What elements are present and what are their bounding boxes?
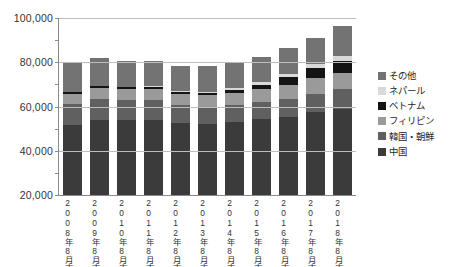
bar-segment-ベトナム — [306, 68, 325, 78]
axis-tick-mark-minor — [55, 84, 59, 85]
bar-segment-ベトナム — [279, 77, 298, 84]
chart-legend: その他ネパールベトナムフィリピン韓国・朝鮮中国 — [378, 68, 456, 159]
legend-label: ネパール — [389, 86, 425, 95]
gridline — [59, 151, 356, 152]
plot-area — [58, 18, 355, 195]
bar-segment-フィリピン — [90, 88, 109, 99]
legend-swatch-icon — [378, 148, 386, 156]
bar-2009年8月末 — [90, 58, 109, 195]
bar-segment-その他 — [171, 66, 190, 91]
x-axis-tick-label: 2013年8月末 — [198, 198, 207, 260]
bar-segment-その他 — [225, 62, 244, 88]
legend-item-フィリピン: フィリピン — [378, 114, 456, 129]
bar-segment-その他 — [333, 26, 352, 56]
legend-item-ネパール: ネパール — [378, 83, 456, 98]
bar-segment-その他 — [306, 38, 325, 64]
bar-2016年8月末 — [279, 48, 298, 195]
y-axis-tick-label: 20,000 — [20, 190, 53, 201]
axis-tick-mark — [55, 107, 59, 108]
x-axis-tick-label: 2017年8月末 — [306, 198, 315, 260]
bar-segment-韓国・朝鮮 — [306, 94, 325, 113]
bar-segment-中国 — [90, 120, 109, 195]
bar-segment-中国 — [252, 119, 271, 195]
legend-label: ベトナム — [389, 101, 425, 110]
bar-segment-その他 — [117, 61, 136, 87]
bar-segment-韓国・朝鮮 — [171, 105, 190, 123]
bar-segment-中国 — [198, 124, 217, 195]
bar-segment-中国 — [144, 120, 163, 195]
bar-segment-フィリピン — [225, 93, 244, 105]
bar-2018年8月末 — [333, 26, 352, 195]
bar-segment-韓国・朝鮮 — [90, 99, 109, 120]
bar-segment-フィリピン — [279, 85, 298, 99]
bar-segment-韓国・朝鮮 — [279, 99, 298, 117]
x-axis-tick-label: 2015年8月末 — [252, 198, 261, 260]
legend-swatch-icon — [378, 102, 386, 110]
legend-swatch-icon — [378, 87, 386, 95]
bar-segment-その他 — [198, 66, 217, 92]
bar-2015年8月末 — [252, 57, 271, 195]
bar-segment-フィリピン — [252, 89, 271, 102]
bar-segment-フィリピン — [63, 94, 82, 104]
bar-segment-フィリピン — [117, 89, 136, 100]
x-axis-tick-label: 2012年8月末 — [171, 198, 180, 260]
bar-2013年8月末 — [198, 66, 217, 195]
bar-segment-韓国・朝鮮 — [198, 107, 217, 124]
legend-item-その他: その他 — [378, 68, 456, 83]
bar-segment-その他 — [63, 63, 82, 91]
bar-segment-韓国・朝鮮 — [252, 102, 271, 119]
axis-tick-mark — [55, 195, 59, 196]
x-axis-tick-label: 2011年8月末 — [144, 198, 153, 260]
bar-segment-その他 — [279, 48, 298, 75]
x-axis-tick-label: 2016年8月末 — [279, 198, 288, 260]
bar-segment-韓国・朝鮮 — [117, 100, 136, 120]
bar-segment-中国 — [171, 123, 190, 195]
axis-tick-mark — [55, 18, 59, 19]
gridline — [59, 18, 356, 19]
bar-segment-フィリピン — [198, 95, 217, 106]
y-axis-tick-label: 60,000 — [20, 102, 53, 113]
bar-2011年8月末 — [144, 61, 163, 195]
bar-segment-その他 — [252, 57, 271, 82]
legend-swatch-icon — [378, 132, 386, 140]
bar-segment-韓国・朝鮮 — [144, 100, 163, 120]
legend-swatch-icon — [378, 117, 386, 125]
x-axis-tick-label: 2018年8月末 — [333, 198, 342, 260]
legend-label: その他 — [389, 71, 416, 80]
gridline — [59, 107, 356, 108]
bottom-caption — [186, 256, 386, 265]
bar-segment-中国 — [63, 125, 82, 195]
bar-segment-フィリピン — [171, 94, 190, 105]
bar-segment-中国 — [279, 117, 298, 195]
x-axis-tick-label: 2009年8月末 — [90, 198, 99, 260]
axis-tick-mark — [55, 151, 59, 152]
bar-segment-中国 — [306, 112, 325, 195]
bar-2012年8月末 — [171, 66, 190, 195]
axis-tick-mark-minor — [55, 129, 59, 130]
axis-tick-mark-minor — [55, 40, 59, 41]
legend-item-韓国・朝鮮: 韓国・朝鮮 — [378, 129, 456, 144]
y-axis-tick-label: 100,000 — [14, 13, 53, 24]
bar-segment-フィリピン — [144, 89, 163, 99]
axis-tick-mark-minor — [55, 173, 59, 174]
x-axis-tick-label: 2008年8月末 — [63, 198, 72, 260]
bar-segment-中国 — [117, 120, 136, 195]
x-axis: 2008年8月末2009年8月末2010年8月末2011年8月末2012年8月末… — [58, 198, 355, 260]
legend-item-中国: 中国 — [378, 144, 456, 159]
bar-segment-中国 — [225, 122, 244, 195]
bar-segment-フィリピン — [333, 73, 352, 89]
bar-2008年8月末 — [63, 63, 82, 195]
y-axis-tick-label: 80,000 — [20, 57, 53, 68]
legend-item-ベトナム: ベトナム — [378, 98, 456, 113]
gridline — [59, 62, 356, 63]
bar-segment-フィリピン — [306, 78, 325, 93]
stacked-bar-chart: 20,00040,00060,00080,000100,000 2008年8月末… — [0, 0, 457, 267]
legend-label: 韓国・朝鮮 — [389, 132, 434, 141]
legend-swatch-icon — [378, 72, 386, 80]
axis-tick-mark — [55, 62, 59, 63]
y-axis: 20,00040,00060,00080,000100,000 — [0, 0, 57, 200]
bar-2014年8月末 — [225, 62, 244, 195]
legend-label: フィリピン — [389, 116, 434, 125]
bar-segment-その他 — [144, 61, 163, 86]
bar-2010年8月末 — [117, 61, 136, 195]
